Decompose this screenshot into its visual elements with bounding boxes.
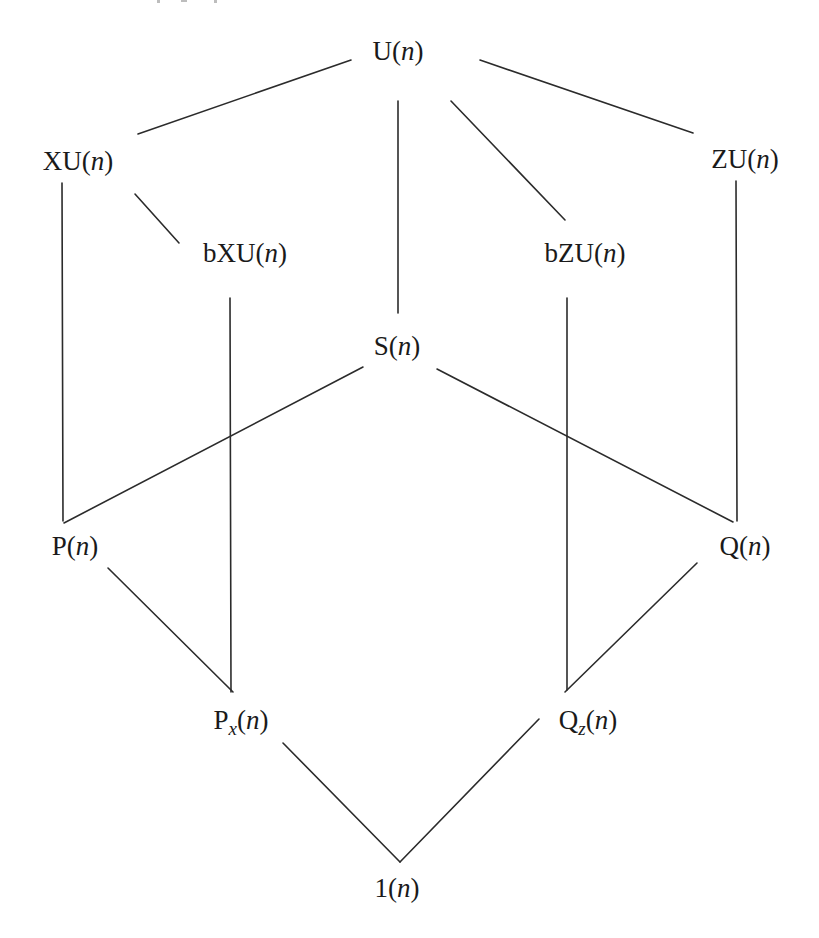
- node-argument: n: [595, 705, 609, 735]
- node-base-label: ZU: [711, 144, 747, 174]
- node-base-label: 1: [375, 873, 389, 903]
- node-argument: n: [397, 873, 411, 903]
- node-base-label: bZU: [545, 238, 595, 268]
- hasse-diagram: U(n)XU(n)ZU(n)bXU(n)bZU(n)S(n)P(n)Q(n)Px…: [0, 0, 819, 938]
- node-bxu: bXU(n): [203, 238, 287, 268]
- node-base-label: S: [374, 331, 389, 361]
- node-base-label: U: [373, 36, 393, 66]
- node-p: P(n): [52, 531, 99, 561]
- node-base-label: XU: [43, 146, 82, 176]
- node-q: Q(n): [720, 531, 771, 561]
- node-base-label: Q: [720, 531, 740, 561]
- node-s: S(n): [374, 331, 421, 361]
- node-u: U(n): [373, 36, 424, 66]
- node-argument: n: [76, 531, 90, 561]
- node-base-label: bXU: [203, 238, 256, 268]
- node-xu: XU(n): [43, 146, 114, 176]
- node-px: Px(n): [214, 705, 269, 739]
- node-argument: n: [401, 36, 415, 66]
- node-argument: n: [265, 238, 279, 268]
- background: [0, 0, 819, 938]
- node-qz: Qz(n): [559, 705, 617, 739]
- node-argument: n: [246, 705, 260, 735]
- node-zu: ZU(n): [711, 144, 779, 174]
- node-argument: n: [603, 238, 617, 268]
- node-argument: n: [398, 331, 412, 361]
- node-base-label: P: [52, 531, 67, 561]
- node-one: 1(n): [375, 873, 420, 903]
- edge-xu-p: [62, 183, 63, 521]
- node-argument: n: [91, 146, 105, 176]
- edge-zu-q: [736, 181, 737, 521]
- edge-bxu-px: [230, 298, 231, 692]
- node-bzu: bZU(n): [545, 238, 626, 268]
- node-base-label: P: [214, 705, 229, 735]
- node-argument: n: [756, 144, 770, 174]
- node-argument: n: [748, 531, 762, 561]
- node-base-label: Q: [559, 705, 579, 735]
